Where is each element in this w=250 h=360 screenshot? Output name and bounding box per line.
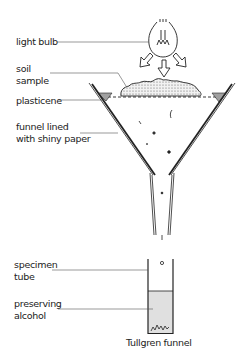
funnel — [89, 83, 235, 235]
light-bulb-icon — [149, 19, 177, 57]
label-alcohol-1: preserving — [14, 298, 62, 309]
leader-lines — [50, 42, 153, 309]
label-funnel-2: with shiny paper — [16, 133, 90, 144]
label-alcohol-2: alcohol — [14, 310, 46, 321]
diagram-caption: Tullgren funnel — [126, 337, 192, 348]
label-plasticene: plasticene — [16, 95, 62, 106]
label-funnel-1: funnel lined — [16, 121, 69, 132]
specimen-tube — [148, 259, 173, 334]
label-specimen-1: specimen — [14, 259, 57, 270]
soil-sample — [121, 79, 201, 96]
label-soil-sample-1: soil — [16, 63, 31, 74]
label-soil-sample-2: sample — [16, 75, 49, 86]
soil-organisms — [139, 110, 172, 240]
label-light-bulb: light bulb — [16, 36, 58, 47]
label-specimen-2: tube — [14, 271, 34, 282]
